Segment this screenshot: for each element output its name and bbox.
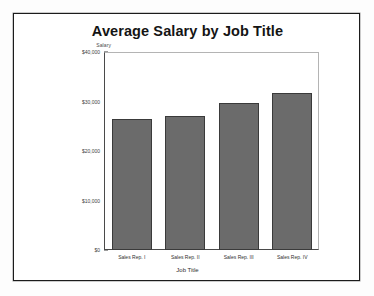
y-axis-tick-label: $20,000 [52,148,104,154]
chart-figure-frame: Average Salary by Job Title Salary $0$10… [13,13,360,281]
bar-2 [165,116,205,250]
x-axis-title: Job Title [14,267,361,273]
x-axis-tick-label: Sales Rep. I [106,254,158,260]
y-axis-tick-label: $30,000 [52,99,104,105]
y-axis-tick-label: $10,000 [52,198,104,204]
y-axis-tick-label: $0 [52,247,104,253]
scanned-page: Average Salary by Job Title Salary $0$10… [0,0,374,296]
y-axis-tick-group: $0$10,000$20,000$30,000$40,000 [44,52,104,250]
bar-1 [112,119,152,250]
bar-3 [219,103,259,250]
x-axis-tick-label: Sales Rep. II [159,254,211,260]
x-axis-tick-label: Sales Rep. IV [266,254,318,260]
bar-4 [272,93,312,250]
y-axis-label: Salary [61,42,111,48]
bar-series [105,52,319,250]
x-axis-tick-label: Sales Rep. III [213,254,265,260]
y-axis-tick-label: $40,000 [52,49,104,55]
chart-title: Average Salary by Job Title [14,23,361,39]
x-axis-tick-group: Sales Rep. ISales Rep. IISales Rep. IIIS… [105,254,319,260]
